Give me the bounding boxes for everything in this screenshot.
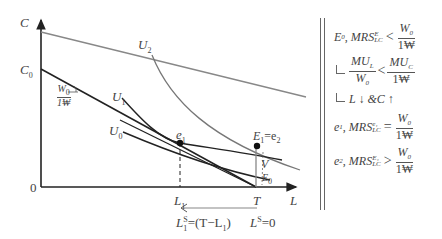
note-direction: L ↓ &C ↑ xyxy=(334,88,442,110)
shifted-budget-line xyxy=(41,32,306,97)
indifference-curve-u0 xyxy=(123,132,270,180)
v-label: V xyxy=(261,158,268,170)
labor-supply-zero-label: LS=0 xyxy=(250,216,276,229)
note-e1-condition: e1, MRS e₁LC = W01₩ xyxy=(334,110,442,144)
u1-label: U1 xyxy=(112,90,125,107)
c0-label: C0 xyxy=(20,63,33,80)
note-e2-condition: e2, MRS E₁LC > W01₩ xyxy=(334,144,442,178)
e1-to-T-line xyxy=(120,120,256,187)
t-tick-label: T xyxy=(253,194,260,207)
x-axis-label: L xyxy=(290,194,297,207)
notes-panel: E0, MRS ELC < W01₩ MULW0 < MUC1₩ L ↓ &C … xyxy=(334,20,442,178)
separator-right xyxy=(324,18,325,210)
implies-arrow-icon xyxy=(336,65,345,74)
budget-slope-label: W01₩ xyxy=(56,84,71,109)
labor-supply-l1-label: L1S=(T−L1) xyxy=(176,216,231,233)
E1-label: E1=e2 xyxy=(253,130,280,145)
l1-tick-label: L1 xyxy=(174,194,185,211)
note-e0-condition: E0, MRS ELC < W01₩ xyxy=(334,20,442,54)
origin-label: 0 xyxy=(30,181,37,194)
e1-label: e1 xyxy=(176,128,186,145)
note-mu-comparison: MULW0 < MUC1₩ xyxy=(334,54,442,88)
u0-label: U0 xyxy=(109,124,122,141)
implies-arrow-icon xyxy=(336,93,345,102)
y-axis-label: C xyxy=(20,16,29,29)
E0-label: E0 xyxy=(262,173,272,186)
separator-left xyxy=(320,18,321,210)
u2-label: U2 xyxy=(138,38,151,55)
